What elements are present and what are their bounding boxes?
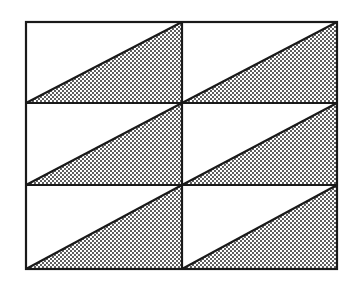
shaded-grid-diagram (0, 0, 360, 289)
